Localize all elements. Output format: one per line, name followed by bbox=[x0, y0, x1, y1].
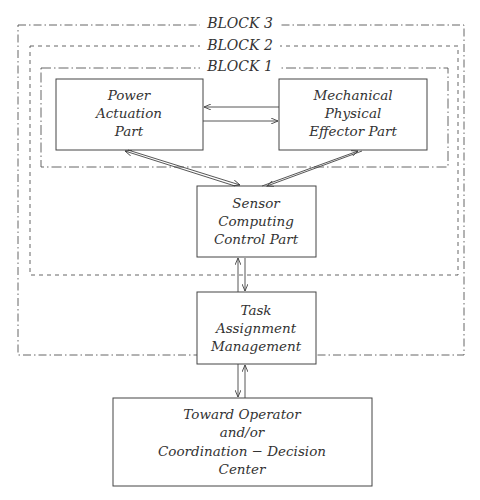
svg-text:Sensor: Sensor bbox=[232, 195, 281, 211]
svg-text:Management: Management bbox=[210, 338, 302, 354]
svg-text:Physical: Physical bbox=[324, 105, 382, 121]
svg-text:Center: Center bbox=[219, 461, 267, 477]
svg-text:Effector Part: Effector Part bbox=[308, 123, 397, 139]
diagram-canvas: BLOCK 3 BLOCK 2 BLOCK 1 Power Actuation … bbox=[0, 0, 480, 500]
task-operator-arrows bbox=[238, 364, 245, 398]
operator-coordination-box: Toward Operator and/or Coordination − De… bbox=[113, 398, 372, 486]
sensor-computing-box: Sensor Computing Control Part bbox=[197, 186, 316, 257]
block-1-label: BLOCK 1 bbox=[206, 58, 273, 74]
svg-text:Part: Part bbox=[114, 123, 144, 139]
svg-text:Computing: Computing bbox=[218, 213, 294, 229]
block-2-label: BLOCK 2 bbox=[206, 37, 273, 53]
power-actuation-box: Power Actuation Part bbox=[56, 79, 203, 150]
mechanical-sensor-arrows bbox=[262, 151, 362, 186]
power-mechanical-arrows bbox=[203, 107, 279, 121]
svg-text:Control Part: Control Part bbox=[214, 231, 299, 247]
svg-text:Actuation: Actuation bbox=[94, 105, 162, 121]
svg-text:Toward Operator: Toward Operator bbox=[183, 406, 302, 422]
power-sensor-arrows bbox=[125, 150, 240, 186]
svg-text:Power: Power bbox=[107, 87, 152, 103]
svg-text:Coordination − Decision: Coordination − Decision bbox=[158, 443, 326, 459]
svg-text:and/or: and/or bbox=[220, 424, 266, 440]
svg-text:Task: Task bbox=[240, 302, 271, 318]
task-assignment-box: Task Assignment Management bbox=[197, 292, 316, 364]
block-3-label: BLOCK 3 bbox=[206, 15, 273, 31]
mechanical-effector-box: Mechanical Physical Effector Part bbox=[279, 79, 427, 150]
svg-text:Assignment: Assignment bbox=[214, 320, 297, 336]
svg-text:Mechanical: Mechanical bbox=[312, 87, 392, 103]
